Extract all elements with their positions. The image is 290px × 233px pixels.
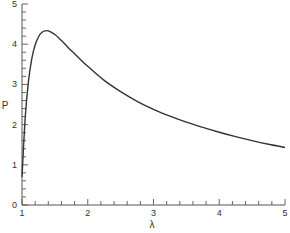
x-tick-label: 1 — [19, 208, 24, 218]
x-tick-label: 4 — [217, 208, 222, 218]
line-chart: 12345012345 λ P — [0, 0, 290, 233]
data-curve — [22, 31, 285, 177]
y-tick-label: 0 — [12, 200, 17, 210]
axes — [22, 4, 285, 205]
y-tick-label: 4 — [12, 39, 17, 49]
y-tick-label: 2 — [12, 120, 17, 130]
x-tick-label: 3 — [151, 208, 156, 218]
x-tick-label: 5 — [282, 208, 287, 218]
y-axis-label: P — [2, 100, 9, 111]
y-tick-label: 3 — [12, 79, 17, 89]
y-tick-label: 1 — [12, 160, 17, 170]
x-tick-label: 2 — [85, 208, 90, 218]
y-tick-label: 5 — [12, 0, 17, 9]
tick-marks — [22, 4, 285, 205]
x-axis-label: λ — [150, 219, 155, 230]
